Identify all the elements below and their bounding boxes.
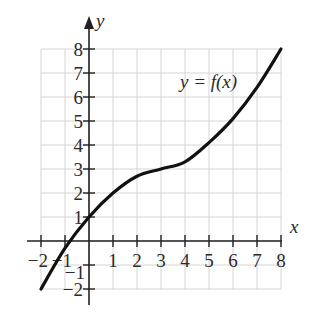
- x-tick-label: 7: [252, 250, 262, 271]
- y-axis-arrow-icon: [84, 16, 94, 29]
- y-tick-label: 6: [74, 87, 84, 108]
- function-graph: −2−112345678−2−112345678 x y y = f(x): [0, 0, 318, 321]
- y-tick-label: 5: [74, 111, 84, 132]
- x-tick-label: 6: [228, 250, 238, 271]
- y-tick-label: 3: [74, 159, 84, 180]
- x-tick-label: 4: [180, 250, 190, 271]
- y-tick-label: 7: [74, 63, 84, 84]
- y-tick-label: 2: [74, 183, 84, 204]
- y-tick-label: 8: [74, 39, 84, 60]
- x-tick-label: 3: [156, 250, 166, 271]
- x-tick-label: 5: [204, 250, 214, 271]
- x-tick-label: 2: [132, 250, 142, 271]
- x-tick-label: 1: [108, 250, 118, 271]
- y-tick-label: 4: [74, 135, 84, 156]
- x-tick-label: 8: [276, 250, 286, 271]
- x-tick-label: −2: [28, 250, 48, 271]
- x-axis-label: x: [289, 216, 299, 237]
- y-axis-label: y: [94, 10, 105, 31]
- y-tick-label: −1: [65, 262, 85, 283]
- curve-label: y = f(x): [178, 71, 237, 93]
